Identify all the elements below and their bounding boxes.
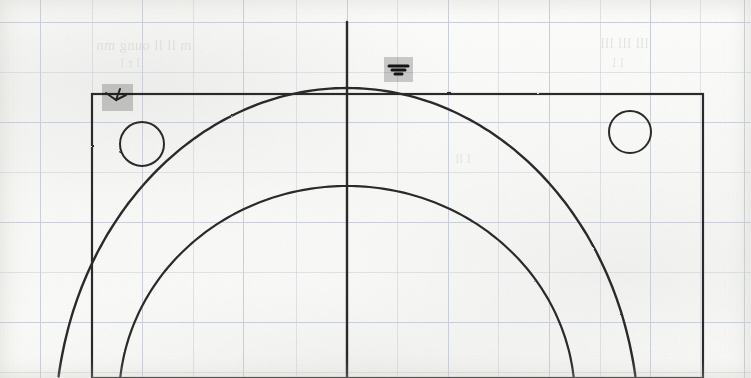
left-highlight-box[interactable] — [102, 84, 133, 111]
left-bolt-hole-circle — [120, 122, 164, 166]
top-highlight-box[interactable] — [384, 57, 413, 82]
rectangle-outline — [92, 94, 703, 378]
right-bolt-hole-circle — [609, 111, 651, 153]
ink-drawing-layer — [0, 0, 751, 378]
scanned-drawing-viewport: m ll ll oung mnl r llll lll llll ll ll — [0, 0, 751, 378]
